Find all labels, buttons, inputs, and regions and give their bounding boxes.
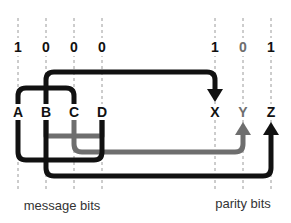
connection-abc-to-x [18, 72, 215, 104]
bit-label-b: B [41, 104, 51, 120]
column-guides [18, 18, 271, 190]
bit-value-c: 0 [70, 39, 78, 55]
message-bit-values: 1 0 0 0 [14, 39, 106, 55]
bit-value-a: 1 [14, 39, 22, 55]
bit-value-y: 0 [239, 39, 247, 55]
parity-bits-caption: parity bits [215, 196, 271, 211]
parity-diagram: 1 0 0 0 1 0 1 A B C D X Y Z message bits… [0, 0, 291, 223]
message-bit-labels: A B C D [13, 104, 107, 120]
connection-abd-to-z [18, 120, 271, 176]
message-bits-caption: message bits [24, 198, 101, 213]
bit-value-z: 1 [267, 39, 275, 55]
bit-label-y: Y [238, 104, 248, 120]
arrow-to-x [207, 89, 223, 102]
bit-label-x: X [210, 104, 220, 120]
bit-value-x: 1 [211, 39, 219, 55]
bit-value-d: 0 [98, 39, 106, 55]
connection-bcd-to-y [46, 120, 243, 152]
bit-label-d: D [97, 104, 107, 120]
bit-label-z: Z [267, 104, 276, 120]
bit-label-a: A [13, 104, 23, 120]
bit-label-c: C [69, 104, 79, 120]
arrow-to-y [235, 122, 251, 135]
bit-value-b: 0 [42, 39, 50, 55]
arrow-to-z [263, 122, 279, 135]
